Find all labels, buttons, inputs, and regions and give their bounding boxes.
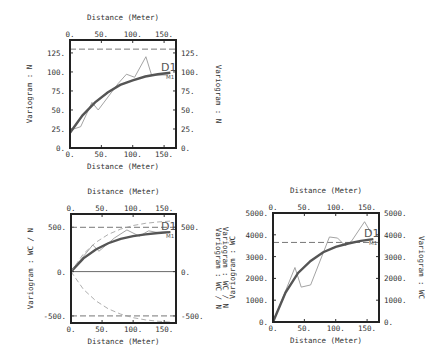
- y-tick-left: 4000.: [245, 231, 268, 240]
- y-tick-left: 50.: [51, 106, 65, 115]
- x-tick-bottom: 150.: [155, 325, 173, 334]
- series-line: [273, 239, 373, 322]
- y-tick-right: 75.: [181, 87, 195, 96]
- series-line: [71, 57, 168, 130]
- y-tick-left: 125.: [47, 49, 65, 58]
- x-tick-top: 0.: [66, 204, 75, 213]
- y-tick-left: 2000.: [245, 274, 268, 283]
- x-tick-bottom: 0.: [65, 150, 74, 159]
- label-d1: D1: [161, 220, 176, 233]
- series-line: [71, 221, 170, 272]
- x-tick-bottom: 0.: [66, 325, 75, 334]
- series-line: [273, 222, 371, 322]
- label-m1: M1: [166, 233, 174, 239]
- x-tick-bottom: 50.: [298, 324, 312, 333]
- x-tick-top: 100.: [124, 204, 142, 213]
- x-tick-bottom: 50.: [95, 150, 109, 159]
- y-tick-right: 2000.: [384, 274, 407, 283]
- y-tick-left: 100.: [47, 68, 65, 77]
- x-tick-bottom: 150.: [155, 150, 173, 159]
- label-d1: D1: [364, 227, 379, 240]
- chart-panel-top-left: Distance (Meter)Distance (Meter)0.0.50.5…: [25, 13, 223, 171]
- x-tick-bottom: 150.: [358, 324, 376, 333]
- y-tick-left: -500.: [43, 312, 66, 321]
- x-tick-top: 50.: [95, 204, 109, 213]
- chart-panel-bottom-right: Distance (Meter)Distance (Meter)0.0.50.5…: [221, 186, 426, 345]
- plot-frame: [70, 40, 176, 148]
- y-axis-label-right: Variogram : WC: [417, 236, 426, 299]
- y-tick-right: 5000.: [384, 209, 407, 218]
- y-tick-right: 0.: [181, 268, 190, 277]
- bottom-axis-title: Distance (Meter): [87, 337, 159, 346]
- y-tick-left: 75.: [51, 87, 65, 96]
- y-tick-left: 0.: [56, 144, 65, 153]
- y-tick-right: 4000.: [384, 231, 407, 240]
- top-axis-title: Distance (Meter): [87, 187, 159, 196]
- y-tick-right: 50.: [181, 106, 195, 115]
- chart-panel-bottom-left: Distance (Meter)Distance (Meter)0.0.50.5…: [26, 187, 223, 346]
- x-tick-top: 0.: [65, 30, 74, 39]
- label-m1: M1: [166, 74, 174, 80]
- y-axis-label-left: Variogram : WC / N: [26, 228, 35, 309]
- y-tick-right: 100.: [181, 68, 199, 77]
- label-m1: M1: [369, 240, 377, 246]
- x-tick-top: 150.: [155, 30, 173, 39]
- variogram-figure: Distance (Meter)Distance (Meter)0.0.50.5…: [0, 0, 442, 362]
- x-tick-top: 150.: [155, 204, 173, 213]
- y-axis-label-left: Variogram : N: [25, 65, 34, 124]
- bottom-axis-title: Distance (Meter): [290, 336, 362, 345]
- y-tick-right: 25.: [181, 125, 195, 134]
- x-tick-bottom: 50.: [95, 325, 109, 334]
- x-tick-top: 150.: [358, 203, 376, 212]
- x-tick-top: 100.: [327, 203, 345, 212]
- y-tick-left: 1000.: [245, 296, 268, 305]
- series-line: [71, 272, 170, 323]
- x-tick-top: 100.: [124, 30, 142, 39]
- y-tick-left: 25.: [51, 125, 65, 134]
- y-tick-right: 0.: [181, 144, 190, 153]
- y-axis-label-right: Variogram : N: [214, 65, 223, 124]
- x-tick-bottom: 0.: [268, 324, 277, 333]
- y-tick-left: 0.: [57, 268, 66, 277]
- y-tick-left: 0.: [259, 318, 268, 327]
- x-tick-top: 0.: [268, 203, 277, 212]
- series-line: [71, 230, 168, 272]
- top-axis-title: Distance (Meter): [87, 13, 159, 22]
- y-tick-right: 500.: [181, 223, 199, 232]
- y-tick-right: 0.: [384, 318, 393, 327]
- x-tick-bottom: 100.: [327, 324, 345, 333]
- x-tick-top: 50.: [95, 30, 109, 39]
- y-tick-left: 500.: [48, 223, 66, 232]
- bottom-axis-title: Distance (Meter): [87, 162, 159, 171]
- top-axis-title: Distance (Meter): [290, 186, 362, 195]
- label-d1: D1: [161, 61, 176, 74]
- y-tick-right: 3000.: [384, 253, 407, 262]
- y-tick-right: -500.: [181, 312, 204, 321]
- x-tick-bottom: 100.: [124, 325, 142, 334]
- x-tick-top: 50.: [298, 203, 312, 212]
- x-tick-bottom: 100.: [124, 150, 142, 159]
- y-tick-left: 3000.: [245, 253, 268, 262]
- y-tick-right: 125.: [181, 49, 199, 58]
- y-tick-right: 1000.: [384, 296, 407, 305]
- y-tick-left: 5000.: [245, 209, 268, 218]
- y-axis-label-overlap: Variogram : WC / N: [221, 227, 230, 308]
